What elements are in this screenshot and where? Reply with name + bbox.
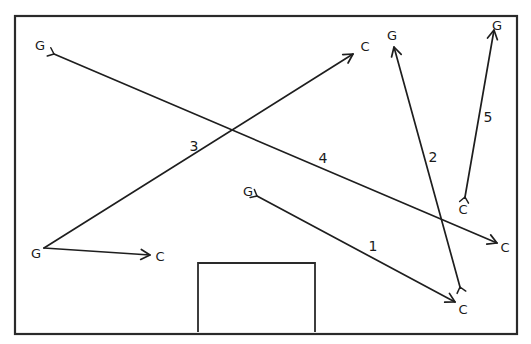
node-label-c: C <box>458 203 467 216</box>
node-label-g: G <box>243 185 253 198</box>
node-label-g: G <box>35 39 45 52</box>
arrow-number-label: 3 <box>190 139 199 153</box>
arrow-line <box>44 54 353 248</box>
arrow-line <box>394 47 460 287</box>
node-label-c: C <box>360 40 369 53</box>
node-label-g: G <box>492 19 502 32</box>
arrows-group <box>44 30 497 302</box>
arrow-number-label: 5 <box>484 110 493 124</box>
goal-box <box>198 263 315 332</box>
node-label-c: C <box>155 250 164 263</box>
diagram-canvas <box>0 0 531 344</box>
field-frame <box>15 16 517 334</box>
node-label-c: C <box>500 241 509 254</box>
node-label-c: C <box>458 303 467 316</box>
tail-mark-icon <box>457 287 466 293</box>
arrow-4 <box>47 48 497 244</box>
arrow-2 <box>392 47 466 293</box>
arrow-3 <box>44 54 353 248</box>
arrow-number-label: 2 <box>429 150 438 164</box>
node-label-g: G <box>31 247 41 260</box>
arrow-number-label: 1 <box>369 239 378 253</box>
node-label-g: G <box>387 29 397 42</box>
arrow-1 <box>250 189 455 302</box>
arrow-6 <box>44 248 150 259</box>
arrow-line <box>44 248 150 255</box>
tail-mark-icon <box>47 48 54 56</box>
arrow-number-label: 4 <box>319 151 328 165</box>
